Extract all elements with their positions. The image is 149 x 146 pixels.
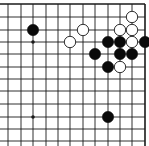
star-point (31, 115, 35, 119)
black-stone (139, 36, 149, 47)
white-stone (64, 36, 75, 47)
white-stone (114, 61, 125, 72)
black-stone (114, 48, 125, 59)
white-stone (114, 24, 125, 35)
black-stone (102, 61, 113, 72)
black-stone (102, 36, 113, 47)
white-stone (126, 36, 137, 47)
black-stone (27, 24, 38, 35)
white-stone (126, 11, 137, 22)
black-stone (102, 111, 113, 122)
black-stone (114, 36, 125, 47)
go-board (0, 0, 149, 146)
black-stone (126, 48, 137, 59)
star-point (31, 40, 35, 44)
black-stone (89, 48, 100, 59)
white-stone (126, 24, 137, 35)
white-stone (77, 24, 88, 35)
